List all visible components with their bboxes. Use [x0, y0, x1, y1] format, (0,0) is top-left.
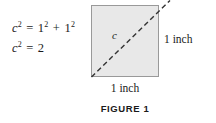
- figure-caption: FIGURE 1: [75, 103, 175, 114]
- equation-block: c2 = 12 + 12 c2 = 2: [12, 18, 92, 58]
- equation-1-plus-operator: +: [52, 21, 61, 35]
- unit-square-shape: [91, 5, 159, 77]
- figure-container: c2 = 12 + 12 c2 = 2 c 1 inch 1 inch FIGU…: [0, 0, 216, 123]
- equation-2-equals: =: [25, 41, 34, 55]
- equation-1-lhs-exponent: 2: [18, 20, 22, 29]
- equation-line-2: c2 = 2: [12, 38, 92, 58]
- equation-2-lhs-exponent: 2: [18, 40, 22, 49]
- side-label-right: 1 inch: [164, 33, 192, 45]
- side-label-bottom: 1 inch: [91, 82, 159, 94]
- equation-1-term-2-exponent: 2: [71, 20, 75, 29]
- equation-line-1: c2 = 12 + 12: [12, 18, 92, 38]
- equation-1-term-1-exponent: 2: [44, 20, 48, 29]
- equation-1-equals: =: [25, 21, 34, 35]
- diagonal-label-c: c: [112, 29, 117, 41]
- equation-2-result: 2: [38, 41, 44, 55]
